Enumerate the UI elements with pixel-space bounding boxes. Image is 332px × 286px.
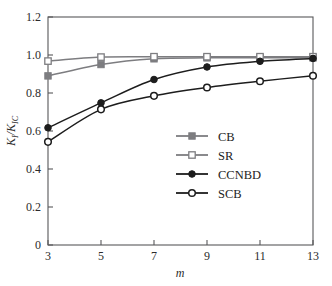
x-axis-title: m [176, 266, 185, 280]
legend-item-cb: CB [176, 130, 235, 144]
data-point-marker [151, 54, 157, 60]
data-point-marker [204, 84, 211, 91]
y-tick-label: 0.8 [26, 86, 41, 100]
y-tick-label: 1.2 [26, 10, 41, 24]
x-axis-tick-labels: 35791113 [45, 249, 319, 263]
line-chart: 00.20.40.60.81.01.2 35791113 m KI/KIC CB… [0, 0, 332, 286]
x-tick-label: 7 [151, 249, 157, 263]
legend-marker [189, 152, 195, 158]
y-axis-tick-labels: 00.20.40.60.81.01.2 [26, 10, 41, 252]
legend-item-sr: SR [176, 149, 234, 163]
data-series-layer [45, 54, 317, 146]
legend-marker [189, 171, 196, 178]
data-point-marker [45, 124, 52, 131]
data-point-marker [98, 106, 105, 113]
legend-item-scb: SCB [176, 187, 242, 201]
y-tick-label: 0.2 [26, 200, 41, 214]
data-point-marker [98, 54, 104, 60]
x-tick-label: 5 [98, 249, 104, 263]
y-axis-title: KI/KIC [4, 115, 20, 147]
x-axis-ticks [48, 240, 313, 245]
legend-marker [189, 190, 196, 197]
x-tick-label: 3 [45, 249, 51, 263]
chart-legend: CBSRCCNBDSCB [176, 130, 261, 201]
series-scb [45, 72, 317, 145]
data-point-marker [204, 64, 211, 71]
data-point-marker [98, 100, 105, 107]
y-tick-label: 0.4 [26, 162, 41, 176]
data-point-marker [151, 76, 158, 83]
data-point-marker [257, 78, 264, 85]
data-point-marker [45, 73, 51, 79]
x-tick-label: 9 [204, 249, 210, 263]
chart-figure: 00.20.40.60.81.01.2 35791113 m KI/KIC CB… [0, 0, 332, 286]
data-point-marker [151, 93, 158, 100]
x-tick-label: 11 [254, 249, 266, 263]
y-axis-title-sub2: IC [11, 115, 20, 125]
data-point-marker [98, 61, 104, 67]
y-tick-label: 1.0 [26, 48, 41, 62]
svg-text:KI/KIC: KI/KIC [4, 115, 20, 147]
data-point-marker [45, 58, 51, 64]
series-sr [45, 54, 316, 65]
data-point-marker [257, 58, 264, 65]
data-point-marker [204, 54, 210, 60]
legend-label: SCB [218, 187, 242, 201]
x-tick-label: 13 [307, 249, 319, 263]
legend-label: CB [218, 130, 235, 144]
series-line [48, 58, 313, 127]
legend-item-ccnbd: CCNBD [176, 168, 261, 182]
legend-label: SR [218, 149, 234, 163]
data-point-marker [310, 55, 317, 62]
data-point-marker [310, 72, 317, 79]
data-point-marker [45, 139, 52, 146]
legend-label: CCNBD [218, 168, 261, 182]
plot-frame [48, 17, 313, 245]
y-tick-label: 0 [35, 238, 41, 252]
series-ccnbd [45, 55, 317, 131]
y-tick-label: 0.6 [26, 124, 41, 138]
legend-marker [189, 133, 195, 139]
